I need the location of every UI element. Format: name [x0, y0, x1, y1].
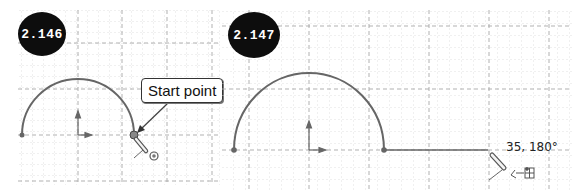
- arc-endpoint[interactable]: [231, 147, 237, 153]
- start-point-callout: Start point: [141, 78, 223, 103]
- figure-2-147-panel: 2.147 35, 180°: [222, 0, 572, 194]
- arc-endpoint[interactable]: [20, 133, 25, 138]
- figure-2-146-panel: 2.146 Start point: [0, 0, 220, 194]
- figure-number-badge: 2.147: [228, 12, 280, 58]
- cursor-coordinate-readout: 35, 180°: [506, 140, 558, 154]
- figure-number-badge: 2.146: [18, 12, 66, 56]
